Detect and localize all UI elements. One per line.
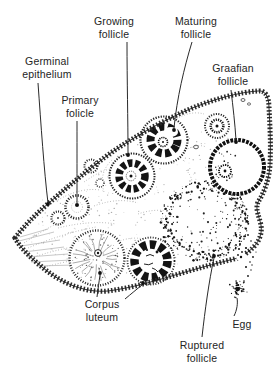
graafian-ovum — [219, 165, 231, 177]
leader-ruptured-follicle — [202, 258, 214, 337]
secondary-follicle — [205, 114, 229, 138]
growing-follicle — [110, 154, 155, 199]
leader-growing-follicle — [127, 42, 128, 153]
leader-egg — [234, 298, 237, 316]
corpus-luteum — [70, 231, 125, 286]
graafian-follicle — [210, 140, 264, 194]
egg — [229, 280, 248, 298]
leader-germinal-epithelium — [38, 83, 48, 203]
ovary-drawing — [0, 0, 280, 373]
ovary-diagram: Germinal epithelium Primary folicle Grow… — [0, 0, 280, 373]
